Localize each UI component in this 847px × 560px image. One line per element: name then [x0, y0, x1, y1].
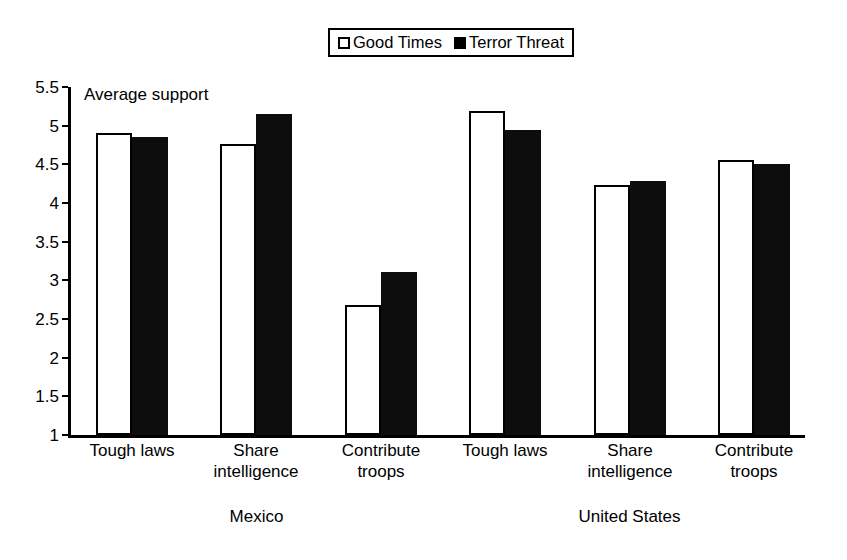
bar-terror-threat	[381, 272, 417, 435]
category-label-line: troops	[694, 462, 814, 483]
y-tick-label: 3.5	[35, 233, 59, 250]
y-tick-label: 2	[50, 349, 59, 366]
category-label-line: Tough laws	[72, 441, 192, 462]
category-label-line: Share	[570, 441, 690, 462]
category-label-line: Share	[196, 441, 316, 462]
category-label-line: troops	[321, 462, 441, 483]
bar-good-times	[96, 133, 132, 435]
bar-terror-threat	[256, 114, 292, 435]
x-axis-line	[68, 435, 805, 438]
y-tick-label: 2.5	[35, 311, 59, 328]
y-tick-mark	[62, 241, 68, 243]
category-label: Contributetroops	[694, 441, 814, 482]
group-label: United States	[530, 508, 730, 525]
y-tick-mark	[62, 279, 68, 281]
category-label-line: Contribute	[694, 441, 814, 462]
bar-chart: Good Times Terror Threat Average support…	[0, 0, 847, 560]
y-tick-mark	[62, 202, 68, 204]
bar-good-times	[718, 160, 754, 435]
category-label-line: Tough laws	[445, 441, 565, 462]
y-tick-label: 5	[50, 117, 59, 134]
category-label-line: intelligence	[196, 462, 316, 483]
plot-area: 5.554.543.532.521.51	[68, 87, 805, 435]
y-tick-label: 4	[50, 195, 59, 212]
y-tick-label: 5.5	[35, 79, 59, 96]
bar-good-times	[594, 185, 630, 435]
legend-entry-good-times: Good Times	[338, 34, 442, 51]
y-tick-mark	[62, 318, 68, 320]
category-label: Contributetroops	[321, 441, 441, 482]
category-label-line: intelligence	[570, 462, 690, 483]
y-tick-label: 4.5	[35, 156, 59, 173]
bar-good-times	[469, 111, 505, 435]
y-tick-mark	[62, 434, 68, 436]
bar-terror-threat	[630, 181, 666, 435]
chart-legend: Good Times Terror Threat	[328, 28, 574, 57]
y-axis-line	[68, 87, 71, 435]
y-tick-mark	[62, 86, 68, 88]
category-label: Tough laws	[72, 441, 192, 462]
bar-terror-threat	[132, 137, 168, 435]
category-label: Shareintelligence	[196, 441, 316, 482]
bar-terror-threat	[505, 130, 541, 435]
y-tick-mark	[62, 357, 68, 359]
y-tick-label: 1	[50, 427, 59, 444]
y-tick-label: 3	[50, 272, 59, 289]
category-label: Shareintelligence	[570, 441, 690, 482]
legend-swatch-good-times-icon	[338, 37, 350, 49]
legend-entry-terror-threat: Terror Threat	[454, 34, 564, 51]
category-label: Tough laws	[445, 441, 565, 462]
bar-good-times	[220, 144, 256, 435]
bar-terror-threat	[754, 164, 790, 435]
y-tick-mark	[62, 163, 68, 165]
y-tick-label: 1.5	[35, 388, 59, 405]
group-label: Mexico	[157, 508, 357, 525]
legend-label-good-times: Good Times	[353, 34, 442, 51]
y-tick-mark	[62, 125, 68, 127]
bar-good-times	[345, 305, 381, 435]
legend-label-terror-threat: Terror Threat	[469, 34, 564, 51]
category-label-line: Contribute	[321, 441, 441, 462]
y-tick-mark	[62, 395, 68, 397]
legend-swatch-terror-threat-icon	[454, 37, 466, 49]
